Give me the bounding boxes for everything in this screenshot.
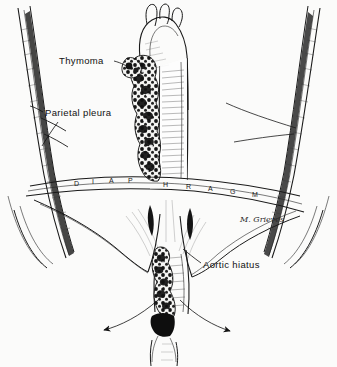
diaphragm-letter: H [163, 181, 168, 188]
descending-aorta [159, 58, 188, 180]
signature-text: M. Grieves [239, 215, 284, 224]
diaphragm-letter: A [109, 177, 114, 184]
artist-signature: M. Grieves [239, 215, 284, 224]
diaphragm-letter: D [74, 180, 79, 187]
anatomical-illustration: D I A P H R A G M [0, 0, 337, 367]
thymoma-label-text: Thymoma [59, 55, 104, 66]
diaphragm-letter: P [128, 177, 133, 184]
diaphragm-letter: M [252, 191, 258, 198]
diaphragm-letter: G [230, 188, 235, 195]
aortic-hiatus-label-text: Aortic hiatus [203, 259, 260, 270]
diaphragm-letter: A [208, 185, 213, 192]
diaphragm-letter: I [92, 178, 94, 185]
diaphragm-letter: R [186, 183, 191, 190]
parietal-pleura-label-text: Parietal pleura [45, 107, 112, 118]
